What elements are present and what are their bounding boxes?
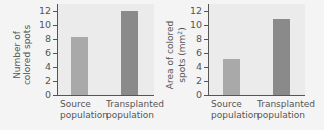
y-tick-label: 10 (37, 20, 51, 30)
y-axis-label: Number of colored spots (12, 20, 34, 90)
y-tick-label: 4 (188, 62, 202, 72)
y-tick-label: 8 (37, 34, 51, 44)
bar-source-population (223, 59, 240, 95)
y-tick-label: 2 (188, 76, 202, 86)
y-tick-label: 4 (37, 62, 51, 72)
y-tick-label: 12 (188, 6, 202, 16)
y-tick-label: 6 (37, 48, 51, 58)
y-tick-label: 0 (37, 90, 51, 100)
bar-transplanted-population (121, 11, 138, 95)
x-label-source: Source population (60, 99, 108, 120)
y-axis (208, 4, 209, 96)
y-axis (57, 4, 58, 96)
x-label-transplanted: Transplanted population (257, 99, 315, 120)
x-axis (57, 95, 154, 96)
y-axis-label: Area of colored spots (mm2) (165, 20, 187, 90)
y-tick-label: 2 (37, 76, 51, 86)
x-label-source: Source population (211, 99, 259, 120)
x-label-transplanted: Transplanted population (106, 99, 164, 120)
bar-source-population (71, 37, 88, 95)
bar-transplanted-population (273, 19, 290, 95)
number-of-spots-chart: Number of colored spots 024681012 Source… (0, 0, 162, 130)
y-tick-label: 12 (37, 6, 51, 16)
y-tick-label: 0 (188, 90, 202, 100)
area-of-spots-chart: Area of colored spots (mm2) 024681012 So… (162, 0, 324, 130)
y-tick-label: 6 (188, 48, 202, 58)
y-tick-label: 10 (188, 20, 202, 30)
x-axis (208, 95, 305, 96)
y-tick-label: 8 (188, 34, 202, 44)
